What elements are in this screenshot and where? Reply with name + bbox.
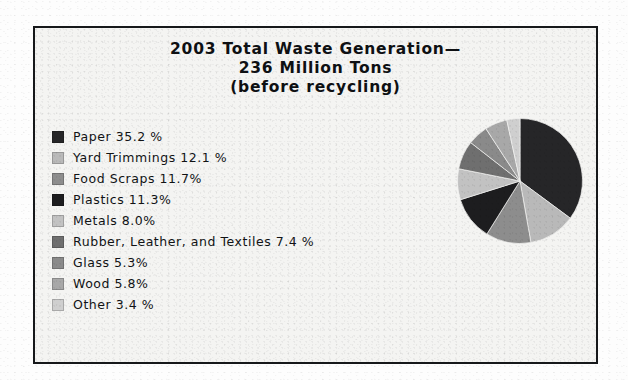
scanned-page-background: 2003 Total Waste Generation— 236 Million… xyxy=(0,0,628,380)
legend-item[interactable]: Food Scraps 11.7% xyxy=(52,168,314,189)
chart-legend: Paper 35.2 %Yard Trimmings 12.1 %Food Sc… xyxy=(52,126,314,315)
legend-item-label: Glass 5.3% xyxy=(73,255,148,270)
legend-item-label: Metals 8.0% xyxy=(73,213,156,228)
legend-swatch-icon xyxy=(52,173,64,185)
legend-swatch-icon xyxy=(52,215,64,227)
chart-title-line-3: (before recycling) xyxy=(35,78,596,97)
pie-chart xyxy=(455,116,585,246)
legend-item[interactable]: Yard Trimmings 12.1 % xyxy=(52,147,314,168)
legend-swatch-icon xyxy=(52,299,64,311)
legend-item[interactable]: Rubber, Leather, and Textiles 7.4 % xyxy=(52,231,314,252)
legend-swatch-icon xyxy=(52,152,64,164)
legend-swatch-icon xyxy=(52,236,64,248)
legend-swatch-icon xyxy=(52,194,64,206)
chart-title-line-1: 2003 Total Waste Generation— xyxy=(35,40,596,59)
legend-item[interactable]: Glass 5.3% xyxy=(52,252,314,273)
legend-item-label: Food Scraps 11.7% xyxy=(73,171,202,186)
chart-frame: 2003 Total Waste Generation— 236 Million… xyxy=(33,26,598,364)
legend-item-label: Rubber, Leather, and Textiles 7.4 % xyxy=(73,234,314,249)
legend-item-label: Plastics 11.3% xyxy=(73,192,171,207)
chart-title-line-2: 236 Million Tons xyxy=(35,59,596,78)
legend-swatch-icon xyxy=(52,278,64,290)
legend-swatch-icon xyxy=(52,131,64,143)
legend-item[interactable]: Plastics 11.3% xyxy=(52,189,314,210)
legend-item[interactable]: Wood 5.8% xyxy=(52,273,314,294)
chart-title: 2003 Total Waste Generation— 236 Million… xyxy=(35,40,596,97)
legend-swatch-icon xyxy=(52,257,64,269)
legend-item[interactable]: Paper 35.2 % xyxy=(52,126,314,147)
legend-item-label: Yard Trimmings 12.1 % xyxy=(73,150,227,165)
legend-item-label: Paper 35.2 % xyxy=(73,129,163,144)
legend-item[interactable]: Other 3.4 % xyxy=(52,294,314,315)
legend-item-label: Other 3.4 % xyxy=(73,297,154,312)
legend-item[interactable]: Metals 8.0% xyxy=(52,210,314,231)
pie-chart-svg xyxy=(455,116,585,246)
legend-item-label: Wood 5.8% xyxy=(73,276,149,291)
